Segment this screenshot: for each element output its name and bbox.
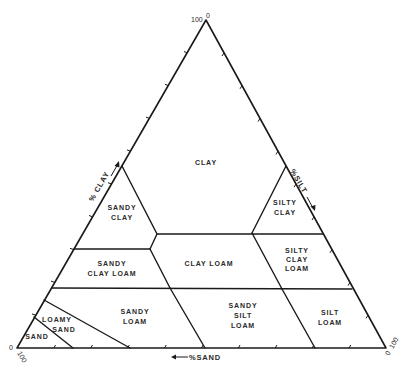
region-label-clay-loam: CLAY LOAM bbox=[185, 260, 234, 267]
region-label-sandy-clay-2: CLAY bbox=[111, 214, 133, 221]
region-label-sandy-clay-1: SANDY bbox=[107, 204, 136, 211]
bottom-right-vertex-label-a: 0 bbox=[384, 350, 392, 357]
region-label-sandy-clay-loam-1: SANDY bbox=[97, 260, 126, 267]
bottom-left-vertex-label-b: 100 bbox=[16, 350, 28, 364]
bottom-right-vertex-label: 0 100 bbox=[384, 336, 400, 357]
silt-axis-ticks bbox=[222, 53, 368, 319]
region-label-silty-clay-1: SILTY bbox=[273, 199, 297, 206]
region-label-sandy-silt-loam-1: SANDY bbox=[228, 302, 257, 309]
silt-axis-text: %SILT bbox=[288, 168, 309, 195]
region-label-loamy-sand-2: SAND bbox=[52, 326, 75, 333]
bottom-left-vertex-label-a: 0 bbox=[9, 344, 13, 351]
top-vertex-label-b: 0 bbox=[206, 12, 210, 19]
sand-axis-label: %SAND bbox=[171, 353, 221, 362]
clay-axis-arrowhead-icon bbox=[115, 161, 120, 168]
region-label-sandy-loam-2: LOAM bbox=[123, 318, 147, 325]
region-label-sandy-clay-loam-2: CLAY LOAM bbox=[88, 270, 137, 277]
top-vertex-label-a: 100 bbox=[191, 16, 203, 23]
outer-triangle bbox=[17, 20, 386, 348]
region-label-silty-clay-loam-1: SILTY bbox=[285, 247, 309, 254]
soil-texture-triangle: CLAY SANDY CLAY SILTY CLAY SANDY CLAY LO… bbox=[0, 0, 409, 372]
clay-axis-label: % CLAY bbox=[87, 161, 120, 203]
bottom-right-vertex-label-b: 100 bbox=[388, 336, 400, 350]
vertex-labels: 100 0 0 100 0 100 bbox=[9, 12, 400, 364]
region-label-loamy-sand-1: LOAMY bbox=[42, 316, 72, 323]
region-label-sand: SAND bbox=[25, 333, 48, 340]
region-label-clay: CLAY bbox=[195, 159, 217, 166]
sand-axis-text: %SAND bbox=[189, 353, 221, 362]
silt-axis-arrowhead-icon bbox=[311, 205, 316, 211]
region-label-silty-clay-loam-3: LOAM bbox=[285, 265, 309, 272]
sand-axis-arrowhead-icon bbox=[171, 355, 176, 360]
region-label-silty-clay-loam-2: CLAY bbox=[286, 256, 308, 263]
region-label-silt-loam-1: SILT bbox=[321, 309, 339, 316]
region-label-sandy-loam-1: SANDY bbox=[120, 308, 149, 315]
region-label-sandy-silt-loam-3: LOAM bbox=[231, 322, 255, 329]
region-label-silt-loam-2: LOAM bbox=[318, 319, 342, 326]
clay-axis-text: % CLAY bbox=[87, 170, 111, 203]
region-label-sandy-silt-loam-2: SILT bbox=[234, 312, 252, 319]
region-label-silty-clay-2: CLAY bbox=[274, 209, 296, 216]
